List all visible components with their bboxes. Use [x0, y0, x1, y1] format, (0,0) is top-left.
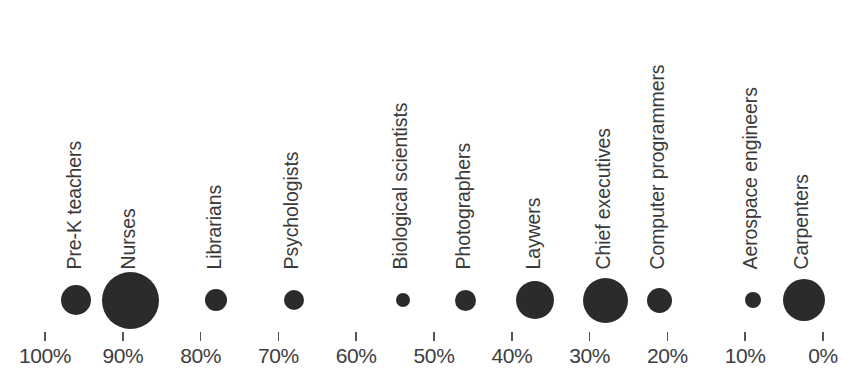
x-axis-tick-label: 90%	[102, 345, 143, 366]
category-label: Laywers	[523, 198, 543, 270]
category-label: Chief executives	[593, 128, 613, 269]
x-axis-tick-label: 10%	[725, 345, 766, 366]
bubble-point	[102, 272, 159, 329]
x-axis-tick	[744, 332, 746, 341]
category-label: Aerospace engineers	[741, 87, 761, 269]
x-axis-tick	[822, 332, 824, 341]
bubble-point	[455, 290, 476, 311]
bubble-point	[284, 290, 304, 310]
x-axis-tick	[667, 332, 669, 341]
category-label: Carpenters	[792, 174, 812, 269]
x-axis-tick	[589, 332, 591, 341]
bubble-point	[647, 288, 672, 313]
bubble-point	[583, 278, 628, 323]
bubble-point	[396, 293, 410, 307]
x-axis-tick-label: 70%	[258, 345, 299, 366]
bubble-point	[783, 279, 825, 321]
x-axis-tick	[433, 332, 435, 341]
x-axis-tick	[200, 332, 202, 341]
x-axis-tick-label: 60%	[336, 345, 377, 366]
x-axis-tick	[355, 332, 357, 341]
x-axis-tick-label: 20%	[647, 345, 688, 366]
bubble-point	[205, 289, 227, 311]
bubble-point	[745, 292, 761, 308]
category-label: Psychologists	[282, 152, 302, 270]
x-axis-tick-label: 0%	[808, 345, 838, 366]
bubble-point	[516, 281, 554, 319]
x-axis-tick	[278, 332, 280, 341]
x-axis-tick	[44, 332, 46, 341]
x-axis-tick-label: 30%	[569, 345, 610, 366]
x-axis-tick	[511, 332, 513, 341]
x-axis-tick-label: 80%	[180, 345, 221, 366]
category-label: Nurses	[119, 208, 139, 269]
category-label: Librarians	[204, 185, 224, 270]
x-axis-tick-label: 100%	[19, 345, 71, 366]
category-label: Pre-K teachers	[64, 141, 84, 270]
x-axis-tick	[122, 332, 124, 341]
category-label: Computer programmers	[648, 65, 668, 270]
category-label: Photographers	[453, 143, 473, 270]
x-axis-tick-label: 50%	[414, 345, 455, 366]
bubble-chart: Pre-K teachersNursesLibrariansPsychologi…	[0, 0, 854, 387]
category-label: Biological scientists	[391, 103, 411, 270]
bubble-point	[61, 285, 91, 315]
x-axis-tick-label: 40%	[491, 345, 532, 366]
plot-area	[0, 0, 854, 387]
